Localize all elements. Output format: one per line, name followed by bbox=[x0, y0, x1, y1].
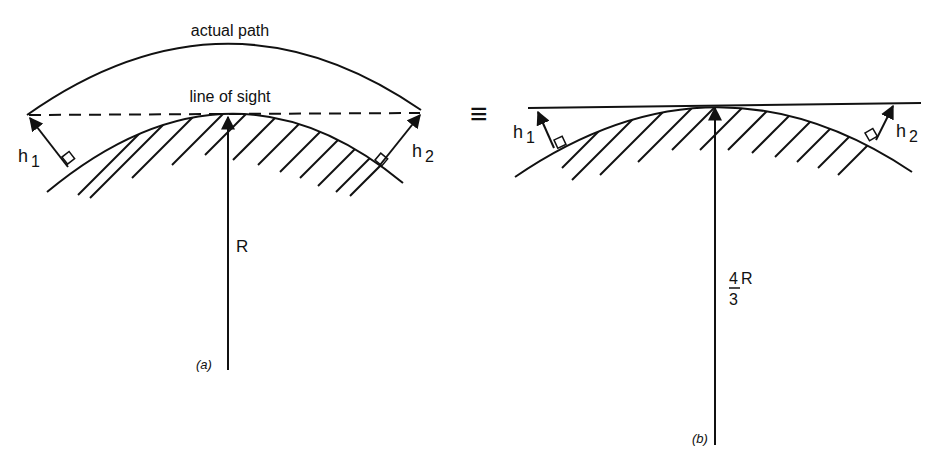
earth-surface-arc-b bbox=[515, 107, 912, 177]
equivalence-symbol: ≡ bbox=[470, 97, 488, 130]
line-of-sight-label: line of sight bbox=[190, 88, 271, 105]
h2-label-a: h2 bbox=[412, 141, 434, 165]
h2-base-b: h bbox=[896, 121, 906, 141]
h2-base: h bbox=[412, 141, 422, 161]
earth-hatching-b bbox=[562, 98, 888, 180]
h1-base-b: h bbox=[513, 122, 523, 142]
h1-subscript: 1 bbox=[31, 153, 40, 170]
radius-symbol: R bbox=[741, 270, 753, 287]
h2-subscript-b: 2 bbox=[909, 128, 918, 145]
h1-subscript-b: 1 bbox=[526, 129, 535, 146]
radius-numerator: 4 bbox=[729, 270, 738, 287]
h2-label-b: h2 bbox=[896, 121, 918, 145]
h2-subscript: 2 bbox=[425, 148, 434, 165]
h1-arrow-b bbox=[538, 112, 554, 148]
actual-path-label: actual path bbox=[191, 22, 269, 39]
h2-arrow-b bbox=[876, 106, 893, 140]
h1-base: h bbox=[18, 146, 28, 166]
h1-label-a: h1 bbox=[18, 146, 40, 170]
radius-denominator: 3 bbox=[729, 291, 738, 308]
diagram-canvas: actual path line of sight h1 h2 R (a) ≡ bbox=[0, 0, 941, 460]
h1-label-b: h1 bbox=[513, 122, 535, 146]
earth-hatching bbox=[78, 95, 410, 198]
diagram-svg: actual path line of sight h1 h2 R (a) ≡ bbox=[0, 0, 941, 460]
caption-a: (a) bbox=[196, 357, 212, 372]
radius-label-b: 4 3 R bbox=[729, 270, 753, 308]
panel-b: h1 h2 4 3 R (b) bbox=[513, 98, 921, 446]
radius-label-a: R bbox=[236, 237, 248, 256]
earth-surface-arc bbox=[47, 114, 403, 192]
caption-b: (b) bbox=[692, 431, 708, 446]
panel-a: actual path line of sight h1 h2 R (a) bbox=[18, 22, 434, 372]
